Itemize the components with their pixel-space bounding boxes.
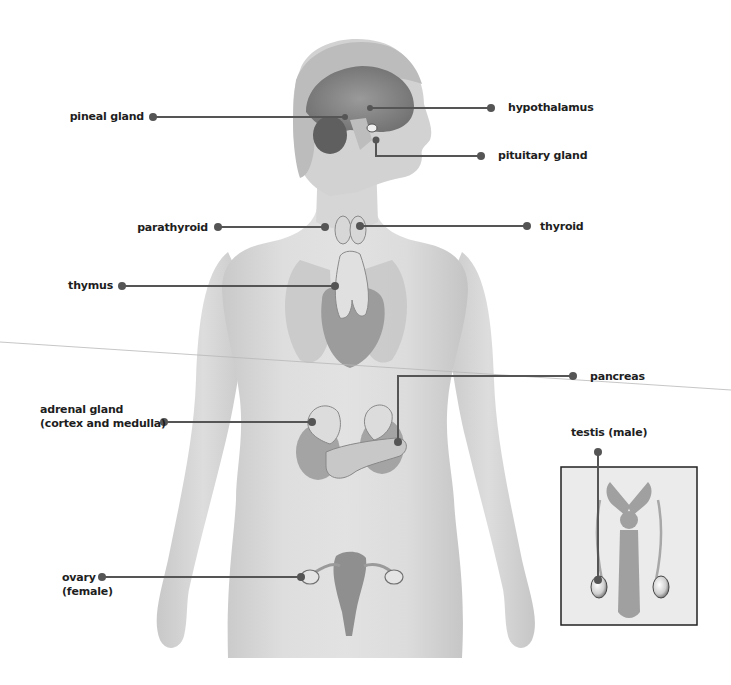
- label-adrenal-line1: adrenal gland: [40, 403, 166, 417]
- body-figure: [157, 39, 535, 658]
- label-pituitary-gland: pituitary gland: [498, 149, 587, 163]
- label-adrenal-line2: (cortex and medulla): [40, 417, 166, 431]
- pituitary-organ: [367, 124, 377, 132]
- label-thymus: thymus: [50, 279, 113, 293]
- label-adrenal-gland: adrenal gland (cortex and medulla): [40, 403, 166, 431]
- label-thyroid: thyroid: [540, 220, 584, 234]
- label-testis: testis (male): [571, 426, 647, 440]
- endocrine-diagram: pineal gland hypothalamus pituitary glan…: [0, 0, 731, 685]
- label-ovary-line2: (female): [62, 585, 113, 599]
- label-pancreas: pancreas: [590, 370, 645, 384]
- label-hypothalamus: hypothalamus: [508, 101, 594, 115]
- cerebellum: [313, 116, 347, 154]
- label-pineal-gland: pineal gland: [60, 110, 144, 124]
- testis-inset: [561, 467, 697, 625]
- label-ovary-line1: ovary: [62, 571, 113, 585]
- right-ovary-organ: [385, 570, 403, 584]
- label-parathyroid: parathyroid: [120, 221, 208, 235]
- label-ovary: ovary (female): [62, 571, 113, 599]
